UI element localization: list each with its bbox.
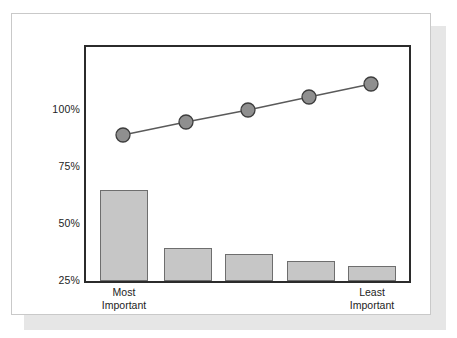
plot-inner-canvas bbox=[86, 47, 409, 281]
x-label-most-important-line2: Important bbox=[102, 299, 146, 312]
x-label-least-important-line2: Important bbox=[350, 299, 394, 312]
bar-1 bbox=[100, 190, 148, 281]
y-tick-label-100: 100% bbox=[38, 103, 80, 115]
y-axis-tick-labels: 100% 75% 50% 25% bbox=[36, 45, 80, 283]
bar-5 bbox=[348, 266, 396, 281]
x-label-least-important-line1: Least bbox=[359, 286, 385, 298]
bar-2 bbox=[164, 248, 212, 281]
bar-3 bbox=[225, 254, 273, 281]
chart-card: 100% 75% 50% 25% M bbox=[11, 13, 431, 315]
bar-4 bbox=[287, 261, 335, 281]
y-tick-label-75: 75% bbox=[38, 160, 80, 172]
x-label-least-important: Least Important bbox=[350, 286, 394, 312]
x-label-most-important-line1: Most bbox=[113, 286, 136, 298]
figure-canvas: 100% 75% 50% 25% M bbox=[0, 0, 457, 338]
y-tick-label-50: 50% bbox=[38, 217, 80, 229]
x-label-most-important: Most Important bbox=[102, 286, 146, 312]
plot-area bbox=[84, 45, 411, 283]
x-axis-category-labels: Most Important Least Important bbox=[84, 286, 411, 320]
y-tick-label-25: 25% bbox=[38, 274, 80, 286]
